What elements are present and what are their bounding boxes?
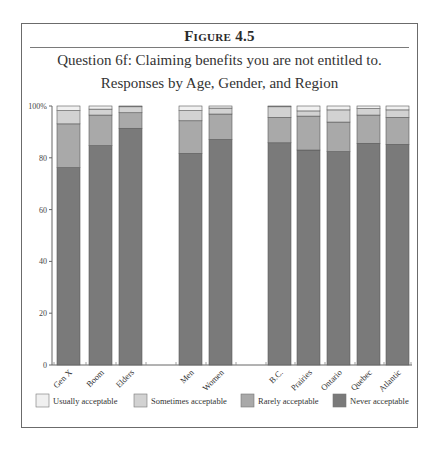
bar-segment-rarely-acceptable <box>89 115 112 146</box>
x-category-label: Gen X <box>51 367 74 390</box>
bar-segment-never-acceptable <box>297 150 320 365</box>
x-category-label: Ontario <box>318 367 343 392</box>
bar-segment-rarely-acceptable <box>57 124 80 168</box>
bar-segment-sometimes-acceptable <box>297 111 320 116</box>
bar-segment-sometimes-acceptable <box>386 110 409 118</box>
bar-segment-usually-acceptable <box>179 106 202 111</box>
legend-swatch <box>333 394 346 407</box>
legend-label: Never acceptable <box>350 396 409 406</box>
bar-segment-rarely-acceptable <box>268 117 291 142</box>
x-category-label: B.C. <box>267 367 285 385</box>
y-tick-label: 60 <box>39 206 47 215</box>
bar-segment-usually-acceptable <box>89 106 112 109</box>
bar-segment-rarely-acceptable <box>357 115 380 143</box>
bar-segment-never-acceptable <box>327 152 350 365</box>
y-tick-label: 80 <box>39 154 47 163</box>
legend-label: Sometimes acceptable <box>151 396 227 406</box>
y-tick-label: 100% <box>28 102 47 111</box>
x-category-label: Quebec <box>348 367 374 393</box>
bar-segment-rarely-acceptable <box>179 121 202 154</box>
bar-segment-never-acceptable <box>119 128 142 365</box>
bar-segment-rarely-acceptable <box>119 113 142 129</box>
bar-segment-sometimes-acceptable <box>179 111 202 121</box>
y-tick-label: 20 <box>39 309 47 318</box>
bar-segment-sometimes-acceptable <box>357 109 380 115</box>
bar-segment-never-acceptable <box>89 146 112 365</box>
bar-segment-sometimes-acceptable <box>119 107 142 113</box>
bar-segment-usually-acceptable <box>386 106 409 110</box>
bar-segment-rarely-acceptable <box>327 122 350 152</box>
bar-segment-rarely-acceptable <box>386 117 409 144</box>
bar-segment-sometimes-acceptable <box>268 107 291 118</box>
bar-segment-usually-acceptable <box>268 106 291 107</box>
bar-segment-usually-acceptable <box>297 106 320 111</box>
x-category-label: Women <box>200 367 226 393</box>
bar-segment-never-acceptable <box>179 153 202 365</box>
x-category-label: Men <box>178 367 197 386</box>
x-category-label: Boom <box>84 367 106 389</box>
legend-label: Usually acceptable <box>53 396 118 406</box>
bar-segment-usually-acceptable <box>327 106 350 110</box>
bar-segment-sometimes-acceptable <box>57 111 80 124</box>
bar-segment-sometimes-acceptable <box>89 109 112 115</box>
bar-segment-usually-acceptable <box>357 106 380 109</box>
legend-label: Rarely acceptable <box>258 396 319 406</box>
bar-segment-sometimes-acceptable <box>327 110 350 122</box>
stacked-bar-chart: 020406080100%Gen XBoomEldersMenWomenB.C.… <box>0 0 437 449</box>
y-tick-label: 40 <box>39 257 47 266</box>
bar-segment-rarely-acceptable <box>297 116 320 150</box>
bar-segment-sometimes-acceptable <box>209 108 232 114</box>
bar-segment-never-acceptable <box>386 144 409 365</box>
bar-segment-never-acceptable <box>57 168 80 365</box>
bar-segment-usually-acceptable <box>209 106 232 108</box>
legend-swatch <box>241 394 254 407</box>
x-category-label: Atlantic <box>376 367 403 394</box>
bar-segment-usually-acceptable <box>119 106 142 107</box>
x-category-label: Prairies <box>288 367 313 392</box>
bar-segment-never-acceptable <box>268 143 291 365</box>
bar-segment-never-acceptable <box>209 139 232 365</box>
bar-segment-usually-acceptable <box>57 106 80 111</box>
legend-swatch <box>134 394 147 407</box>
bar-segment-never-acceptable <box>357 143 380 365</box>
x-category-label: Elders <box>113 367 135 389</box>
y-tick-label: 0 <box>43 361 47 370</box>
legend-swatch <box>36 394 49 407</box>
bar-segment-rarely-acceptable <box>209 114 232 139</box>
